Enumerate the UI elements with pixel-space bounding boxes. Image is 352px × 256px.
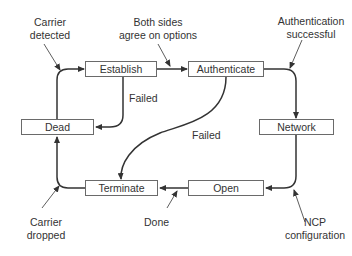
label-failed-establish: Failed — [129, 92, 158, 105]
state-authenticate: Authenticate — [188, 61, 264, 77]
state-terminate: Terminate — [85, 180, 158, 196]
label-line: Carrier — [18, 16, 82, 29]
label-line: agree on options — [108, 29, 208, 42]
label-line: successful — [266, 28, 352, 41]
state-network: Network — [259, 119, 334, 135]
label-done: Done — [144, 216, 169, 229]
label-authentication-successful: Authentication successful — [266, 15, 352, 41]
label-line: Carrier — [14, 216, 78, 229]
label-line: Authentication — [266, 15, 352, 28]
label-line: dropped — [14, 229, 78, 242]
label-carrier-detected: Carrier detected — [18, 16, 82, 42]
label-line: configuration — [275, 229, 352, 242]
label-both-sides-agree: Both sides agree on options — [108, 16, 208, 42]
label-line: NCP — [275, 216, 352, 229]
label-ncp-configuration: NCP configuration — [275, 216, 352, 242]
state-dead: Dead — [21, 119, 94, 135]
label-carrier-dropped: Carrier dropped — [14, 216, 78, 242]
state-open: Open — [188, 180, 264, 196]
label-failed-authenticate: Failed — [192, 129, 221, 142]
label-line: detected — [18, 29, 82, 42]
label-line: Both sides — [108, 16, 208, 29]
state-establish: Establish — [85, 61, 157, 77]
